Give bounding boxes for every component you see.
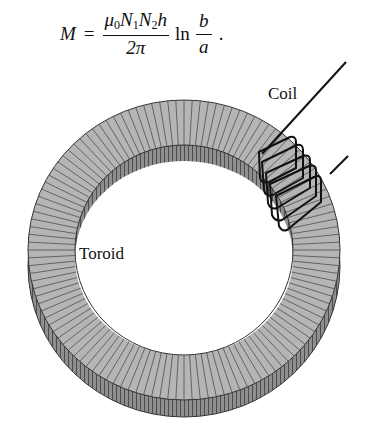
toroid-label: Toroid <box>79 244 124 264</box>
coil-lead-right <box>330 156 348 174</box>
coil-label: Coil <box>268 84 297 104</box>
toroid-figure <box>0 0 366 430</box>
coil-lead-top <box>262 62 346 154</box>
